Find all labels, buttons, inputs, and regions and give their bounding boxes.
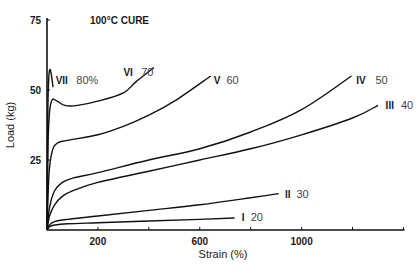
curve-i [47,218,235,230]
x-axis-title: Strain (%) [199,248,248,260]
curve-iv [47,76,352,230]
y-tick-label: 50 [30,85,42,96]
curve-label-pct-iii: 40 [401,99,413,111]
y-axis-title: Load (kg) [4,102,16,148]
y-tick-label: 75 [30,15,42,26]
curve-label-pct-v: 60 [226,74,238,86]
curve-label-pct-iv: 50 [375,74,387,86]
curve-label-roman-iv: IV [356,75,366,86]
curve-label-roman-i: I [242,212,245,223]
x-tick-label: 200 [90,236,107,247]
curve-label-roman-vii: VII [56,75,68,86]
curve-iii [47,105,378,230]
x-tick-label: 1000 [290,236,313,247]
curve-label-roman-ii: II [285,189,291,200]
curve-vi [47,68,154,230]
curve-label-roman-iii: III [386,100,395,111]
curve-label-pct-vi: 70 [141,66,153,78]
y-tick-label: 25 [30,155,42,166]
curve-label-pct-i: 20 [251,211,263,223]
axes: 2006001000255075 [30,15,405,247]
curve-label-roman-v: V [214,75,221,86]
curve-label-roman-vi: VI [123,67,133,78]
load-strain-chart: 2006001000255075 I20II30III40IV50V60VI70… [0,0,419,274]
x-tick-label: 600 [191,236,208,247]
curve-label-pct-vii: 80% [76,74,98,86]
chart-title: 100°C CURE [90,15,149,26]
curve-label-pct-ii: 30 [297,188,309,200]
curves [47,68,378,230]
